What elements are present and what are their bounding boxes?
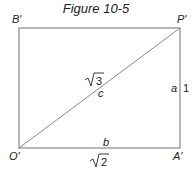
- vertex-p-prime: P': [177, 13, 187, 25]
- vertex-a-prime: A': [172, 150, 183, 162]
- diagonal-value: 3: [96, 75, 102, 87]
- bottom-edge-label: b: [103, 136, 109, 148]
- right-edge-value: 1: [183, 82, 189, 94]
- vertex-b-prime: B': [12, 13, 22, 25]
- figure-title: Figure 10-5: [63, 1, 130, 16]
- diagonal-label: c: [98, 87, 104, 99]
- figure-diagram: Figure 10-5 B' P' O' A' 3 c a 1 b 2: [0, 0, 192, 172]
- vertex-o-prime: O': [9, 150, 21, 162]
- bottom-edge-value: 2: [101, 156, 107, 168]
- right-edge-label: a: [171, 82, 177, 94]
